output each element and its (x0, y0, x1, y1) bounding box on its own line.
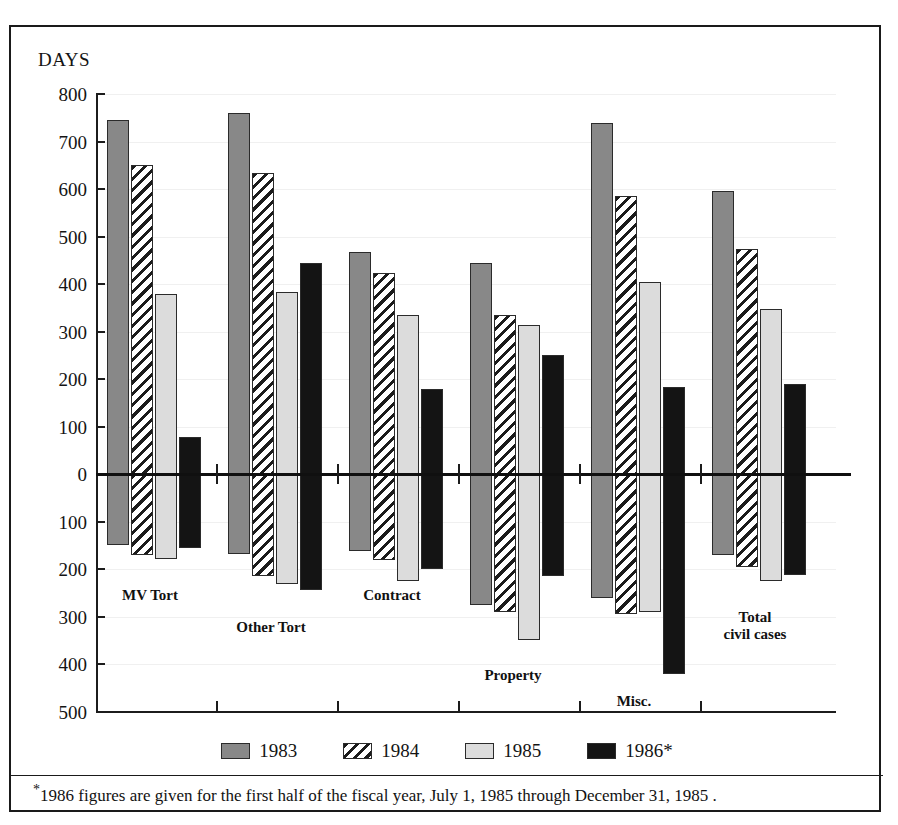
bar-negative (397, 474, 419, 581)
bar-negative (518, 474, 540, 640)
bar-negative (349, 474, 371, 551)
x-axis-tick (579, 701, 581, 712)
bar-positive (276, 292, 298, 474)
bar-negative (131, 474, 153, 555)
category-label: Misc. (594, 693, 674, 710)
legend-item[interactable]: 1984 (343, 740, 419, 762)
legend-label: 1984 (381, 740, 419, 762)
legend-label: 1985 (503, 740, 541, 762)
gridline (98, 569, 836, 570)
category-separator-tick (458, 464, 460, 484)
bar-negative (615, 474, 637, 614)
y-axis-tick-label: 800 (25, 94, 87, 95)
solid-gray-swatch (221, 743, 250, 759)
zero-baseline (96, 473, 851, 476)
bar-negative (736, 474, 758, 567)
bar-negative (228, 474, 250, 554)
footnote: *1986 figures are given for the first ha… (33, 782, 869, 806)
bar-negative (300, 474, 322, 590)
bar-positive (712, 191, 734, 474)
y-axis-title: DAYS (38, 49, 90, 71)
y-axis-tick-label: 500 (25, 712, 87, 713)
y-axis-tick-label: 200 (25, 569, 87, 570)
gridline (98, 664, 836, 665)
bar-negative (276, 474, 298, 584)
category-label: Totalcivil cases (700, 609, 810, 643)
chart-frame: DAYS 80070060050040030020010001002003004… (9, 25, 881, 812)
bar-negative (712, 474, 734, 555)
bar-positive (663, 387, 685, 474)
legend-item[interactable]: 1983 (221, 740, 297, 762)
y-axis-line (96, 94, 98, 712)
bar-negative (591, 474, 613, 598)
y-axis-tick-label: 100 (25, 427, 87, 428)
bar-positive (373, 273, 395, 474)
x-axis-tick (458, 701, 460, 712)
bar-negative (470, 474, 492, 605)
bar-positive (470, 263, 492, 474)
bar-positive (615, 196, 637, 474)
bar-positive (736, 249, 758, 474)
bar-positive (179, 437, 201, 474)
bar-positive (591, 123, 613, 475)
y-axis-tick-label: 600 (25, 189, 87, 190)
solid-black-swatch (587, 743, 616, 759)
category-label: Property (463, 667, 563, 684)
y-axis-tick-label: 400 (25, 284, 87, 285)
footnote-divider (11, 775, 883, 776)
bar-negative (373, 474, 395, 560)
bar-negative (421, 474, 443, 569)
y-axis-tick-label: 200 (25, 379, 87, 380)
bar-positive (494, 315, 516, 474)
category-separator-tick (579, 464, 581, 484)
bar-negative (155, 474, 177, 559)
legend-label: 1986* (625, 740, 673, 762)
x-axis-line (96, 711, 836, 713)
bar-negative (107, 474, 129, 545)
gridline (98, 142, 836, 143)
y-axis-tick-label: 500 (25, 237, 87, 238)
bar-positive (784, 384, 806, 474)
bar-negative (494, 474, 516, 612)
diagonal-hatch-swatch (343, 743, 372, 759)
gridline (98, 189, 836, 190)
y-axis-tick-label: 700 (25, 142, 87, 143)
bar-negative (663, 474, 685, 674)
bar-positive (252, 173, 274, 474)
category-separator-tick (700, 464, 702, 484)
bar-positive (107, 120, 129, 474)
y-axis-tick-label: 400 (25, 664, 87, 665)
x-axis-tick (216, 701, 218, 712)
category-separator-tick (216, 464, 218, 484)
bar-positive (421, 389, 443, 474)
y-axis-tick-label: 300 (25, 332, 87, 333)
footnote-text: 1986 figures are given for the first hal… (40, 786, 717, 805)
gridline (98, 94, 836, 95)
bar-negative (760, 474, 782, 581)
bar-positive (349, 252, 371, 474)
bar-positive (131, 165, 153, 474)
legend-label: 1983 (259, 740, 297, 762)
bar-positive (228, 113, 250, 474)
category-label: MV Tort (105, 587, 195, 604)
legend-item[interactable]: 1986* (587, 740, 673, 762)
category-label: Contract (345, 587, 440, 604)
bar-negative (784, 474, 806, 575)
light-gray-swatch (465, 743, 494, 759)
bar-negative (542, 474, 564, 576)
footnote-marker: * (33, 782, 40, 797)
legend-item[interactable]: 1985 (465, 740, 541, 762)
category-separator-tick (337, 464, 339, 484)
x-axis-tick (337, 701, 339, 712)
bar-negative (179, 474, 201, 548)
x-axis-tick (700, 701, 702, 712)
bar-positive (155, 294, 177, 474)
y-axis-tick-label: 300 (25, 617, 87, 618)
bar-positive (542, 355, 564, 474)
bar-positive (760, 309, 782, 474)
y-axis-tick-label: 0 (25, 474, 87, 475)
bar-positive (397, 315, 419, 474)
bar-positive (518, 325, 540, 474)
chart-legend: 1983198419851986* (11, 737, 883, 765)
y-axis-tick-label: 100 (25, 522, 87, 523)
